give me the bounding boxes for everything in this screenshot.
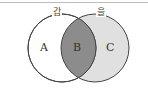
region-b-label: B [73,42,81,53]
region-a-label: A [40,42,48,53]
set-gap-label: 갑 [52,8,62,17]
set-eul-label: 을 [96,8,106,17]
region-c-label: C [106,42,114,53]
